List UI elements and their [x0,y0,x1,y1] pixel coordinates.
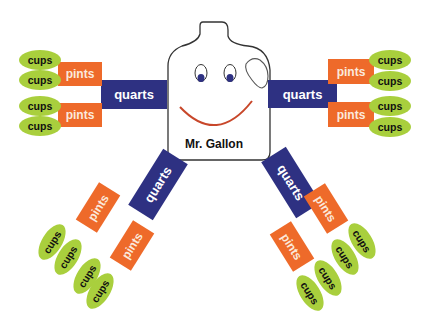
pints-upper-right-1: pints [328,59,374,84]
right-pupil [227,74,234,82]
quarts-upper-right: quarts [268,80,337,108]
cups-ul-1: cups [19,50,61,70]
pints-upper-left-2: pints [58,103,102,127]
jug-title: Mr. Gallon [185,137,243,151]
cups-ul-3: cups [19,96,61,116]
cups-ur-3: cups [369,96,411,116]
left-pupil [198,74,205,82]
cups-ur-4: cups [369,117,411,137]
cups-ul-4: cups [19,116,61,136]
cups-ul-2: cups [19,70,61,90]
pints-upper-right-2: pints [328,102,374,127]
cups-ur-1: cups [369,50,411,70]
cups-ur-2: cups [369,71,411,91]
pints-upper-left-1: pints [58,62,102,86]
quarts-upper-left: quarts [101,80,167,109]
